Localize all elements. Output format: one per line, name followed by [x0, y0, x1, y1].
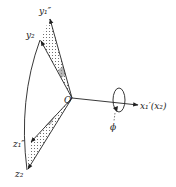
upper-wedge	[40, 18, 72, 98]
rotation-diagram	[0, 0, 176, 187]
label-origin: O	[64, 96, 71, 105]
label-x-axis: x₁′(x₂)	[140, 102, 166, 111]
label-y1pp: y₁″	[39, 7, 51, 16]
axis-x	[72, 98, 138, 105]
label-z2: z₂	[15, 170, 23, 179]
label-y2: y₂	[26, 31, 35, 40]
phi-leader	[114, 113, 115, 121]
label-phi: ϕ	[110, 123, 116, 132]
label-z1pp: z₁″	[13, 140, 25, 149]
axis-z2	[28, 98, 72, 169]
